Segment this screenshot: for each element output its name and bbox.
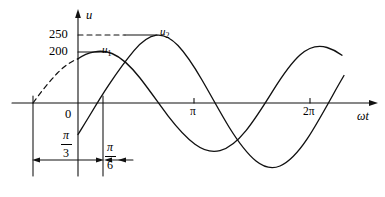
waveform-figure: u ωt 0 250 200 π 2π u1 u2 π 3 π 6 <box>0 0 385 197</box>
x-axis-arrowhead <box>369 100 378 106</box>
pi-over-3-denominator: 3 <box>55 146 77 161</box>
y-tick-label-200: 200 <box>49 45 68 58</box>
pi-over-3-fraction-bar <box>61 144 72 145</box>
curve-label-u1: u1 <box>102 44 112 58</box>
x-axis-label: ωt <box>357 110 369 122</box>
x-tick-label-pi: π <box>190 106 196 118</box>
y-axis-arrowhead <box>75 9 81 18</box>
curve-label-u1-subscript: 1 <box>108 49 112 58</box>
curve-label-u2-subscript: 2 <box>166 31 170 40</box>
curve-u1 <box>78 46 342 151</box>
y-axis-label: u <box>86 9 92 22</box>
x-tick-label-2pi: 2π <box>303 106 315 118</box>
annotation-pi-over-6: π 6 <box>99 140 121 173</box>
curve-label-u2: u2 <box>160 26 170 40</box>
origin-label: 0 <box>65 108 71 121</box>
pi-over-6-numerator: π <box>99 140 121 155</box>
pi-over-6-fraction-bar <box>105 156 116 157</box>
pi-over-6-denominator: 6 <box>99 158 121 173</box>
curve-u1-dashed-extension <box>33 59 78 103</box>
pi-over-3-numerator: π <box>55 128 77 143</box>
y-tick-label-250: 250 <box>49 28 68 41</box>
annotation-pi-over-3: π 3 <box>55 128 77 161</box>
